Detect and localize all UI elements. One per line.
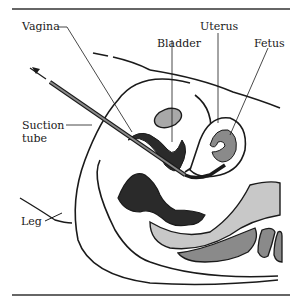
label-uterus: Uterus <box>200 20 239 33</box>
label-bladder: Bladder <box>157 37 202 50</box>
label-leg: Leg <box>21 215 42 228</box>
label-suction: Suction <box>22 119 64 132</box>
label-tube: tube <box>22 132 47 145</box>
pelvic-tissue <box>118 174 205 226</box>
vertebra-1 <box>258 228 275 257</box>
suction-procedure-diagram: Vagina Bladder Uterus Fetus Suction tube… <box>0 0 298 303</box>
label-vagina: Vagina <box>21 20 60 33</box>
vaginal-wall <box>128 133 186 171</box>
vertebra-2 <box>274 232 282 263</box>
abdomen-outline <box>93 53 280 108</box>
label-fetus: Fetus <box>254 37 285 50</box>
bladder <box>152 105 184 131</box>
